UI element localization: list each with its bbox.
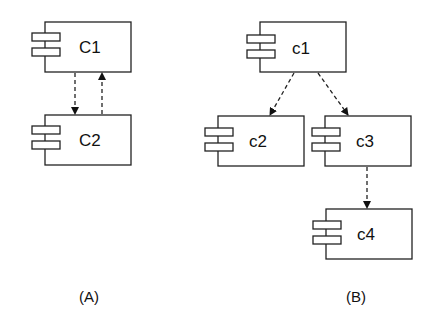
component-C1[interactable]: C1 [32, 22, 131, 72]
component-icon [247, 35, 275, 43]
component-c3[interactable]: c3 [312, 116, 411, 166]
caption-a: (A) [79, 288, 99, 305]
component-label: c3 [356, 132, 374, 151]
component-c2[interactable]: c2 [205, 116, 304, 166]
component-diagram-canvas: C1 C2 (A) c1 c2 c3 [0, 0, 430, 320]
component-label: c4 [357, 225, 375, 244]
component-label: c1 [292, 39, 310, 58]
component-icon [32, 33, 60, 41]
dependency-c1-to-c3[interactable] [318, 73, 348, 115]
caption-b: (B) [346, 288, 366, 305]
component-label: c2 [249, 132, 267, 151]
component-c1[interactable]: c1 [247, 22, 346, 72]
component-icon [312, 128, 340, 136]
component-label: C2 [79, 131, 101, 150]
component-C2[interactable]: C2 [32, 115, 131, 165]
dependency-c1-to-c2[interactable] [270, 73, 294, 115]
component-icon [313, 221, 341, 229]
component-label: C1 [79, 38, 101, 57]
component-c4[interactable]: c4 [313, 209, 412, 259]
diagram-a: C1 C2 (A) [32, 22, 131, 305]
diagram-b: c1 c2 c3 c4 (B) [205, 22, 412, 305]
component-icon [32, 126, 60, 134]
component-icon [205, 128, 233, 136]
